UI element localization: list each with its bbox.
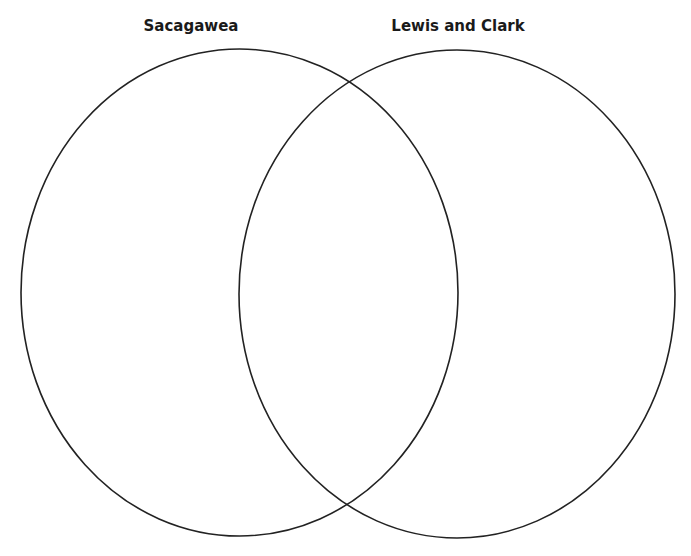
ellipse-lewis-and-clark [239,50,675,538]
venn-diagram [0,0,691,556]
